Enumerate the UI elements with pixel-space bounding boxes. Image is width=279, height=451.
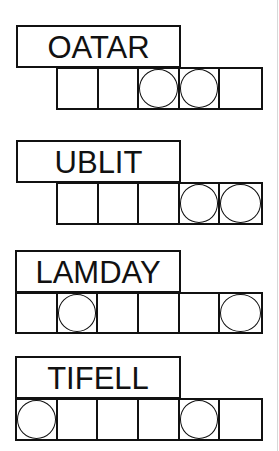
answer-cell[interactable] bbox=[139, 400, 180, 439]
answer-cell-circled[interactable] bbox=[139, 69, 180, 108]
answer-cell-circled[interactable] bbox=[220, 294, 261, 332]
answer-cell-circled[interactable] bbox=[17, 400, 58, 439]
scrambled-word: OATAR bbox=[47, 32, 149, 63]
scrambled-word-box: TIFELL bbox=[15, 356, 181, 399]
scrambled-word-box: UBLIT bbox=[16, 140, 181, 183]
answer-cell-circled[interactable] bbox=[180, 69, 221, 108]
scrambled-word-box: OATAR bbox=[16, 25, 181, 68]
answer-cell[interactable] bbox=[98, 294, 139, 332]
answer-cell-circled[interactable] bbox=[180, 400, 221, 439]
answer-cells bbox=[56, 182, 263, 225]
scrambled-word: UBLIT bbox=[55, 147, 143, 178]
scrambled-word-box: LAMDAY bbox=[15, 250, 181, 293]
answer-cell[interactable] bbox=[139, 294, 180, 332]
answer-cell[interactable] bbox=[58, 69, 99, 108]
answer-cell[interactable] bbox=[139, 184, 180, 223]
scrambled-word: TIFELL bbox=[47, 363, 149, 394]
page-edge-divider bbox=[277, 0, 278, 451]
answer-cell[interactable] bbox=[58, 184, 99, 223]
answer-cells bbox=[56, 67, 263, 110]
answer-cell[interactable] bbox=[99, 69, 140, 108]
answer-cell-circled[interactable] bbox=[220, 184, 261, 223]
answer-cell-circled[interactable] bbox=[180, 184, 221, 223]
answer-cell[interactable] bbox=[58, 400, 99, 439]
answer-cell[interactable] bbox=[99, 184, 140, 223]
answer-cell[interactable] bbox=[180, 294, 221, 332]
answer-cell[interactable] bbox=[98, 400, 139, 439]
answer-cell-circled[interactable] bbox=[58, 294, 99, 332]
answer-cell[interactable] bbox=[220, 69, 261, 108]
answer-cells bbox=[15, 398, 263, 441]
answer-cell[interactable] bbox=[17, 294, 58, 332]
answer-cell[interactable] bbox=[220, 400, 261, 439]
answer-cells bbox=[15, 292, 263, 334]
scrambled-word: LAMDAY bbox=[35, 257, 160, 288]
